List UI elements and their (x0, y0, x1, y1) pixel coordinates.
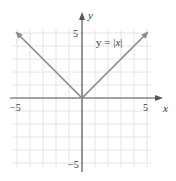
y-tick-min: −5 (68, 159, 79, 170)
axes (10, 12, 163, 172)
equation-prefix: y = | (96, 36, 115, 48)
y-axis-label: y (87, 9, 93, 21)
x-axis-arrow-icon (155, 95, 163, 101)
y-axis-arrow-icon (79, 12, 85, 20)
x-tick-min: −5 (10, 102, 21, 113)
equation-suffix: | (120, 36, 122, 48)
graph-canvas: x y −5 5 5 −5 y = |x| (0, 0, 176, 181)
x-axis-label: x (162, 102, 168, 114)
x-tick-max: 5 (143, 102, 148, 113)
equation-label: y = |x| (96, 36, 123, 48)
y-tick-max: 5 (73, 28, 78, 39)
